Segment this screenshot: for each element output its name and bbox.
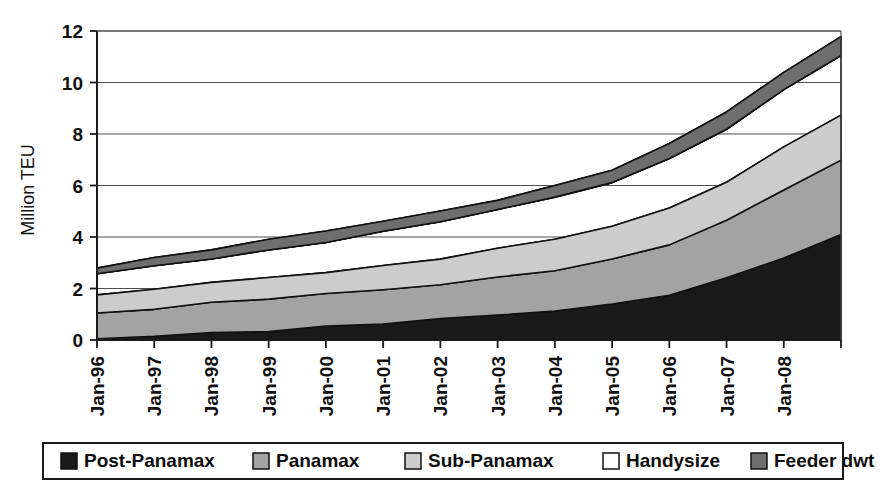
y-axis-title: Million TEU: [18, 144, 38, 236]
x-tick-label: Jan-02: [430, 356, 451, 416]
y-tick-label: 12: [62, 21, 83, 42]
x-tick-label: Jan-99: [259, 356, 280, 416]
x-tick-label: Jan-05: [602, 356, 623, 417]
x-tick-label: Jan-00: [316, 356, 337, 416]
legend-swatch-feeder-dwt: [751, 453, 767, 469]
y-tick-label: 6: [72, 176, 83, 197]
y-tick-label: 0: [72, 330, 83, 351]
x-tick-label: Jan-06: [659, 356, 680, 416]
x-tick-label: Jan-04: [545, 356, 566, 417]
x-tick-label: Jan-08: [774, 356, 795, 416]
x-tick-label: Jan-03: [488, 356, 509, 416]
x-tick-label: Jan-98: [201, 356, 222, 416]
y-tick-label: 8: [72, 124, 83, 145]
legend-swatch-panamax: [253, 453, 269, 469]
legend-label-sub-panamax: Sub-Panamax: [428, 450, 554, 471]
legend-label-handysize: Handysize: [626, 450, 720, 471]
legend-label-post-panamax: Post-Panamax: [84, 450, 215, 471]
legend-label-panamax: Panamax: [276, 450, 360, 471]
chart-canvas: 024681012 Jan-96Jan-97Jan-98Jan-99Jan-00…: [0, 0, 885, 490]
x-tick-label: Jan-07: [717, 356, 738, 416]
x-tick-label: Jan-01: [373, 356, 394, 417]
y-tick-label: 2: [72, 279, 83, 300]
legend-swatch-sub-panamax: [405, 453, 421, 469]
stacked-area-chart: 024681012 Jan-96Jan-97Jan-98Jan-99Jan-00…: [0, 0, 885, 490]
x-tick-label: Jan-97: [144, 356, 165, 416]
y-tick-label: 10: [62, 73, 83, 94]
legend-swatch-post-panamax: [61, 453, 77, 469]
y-tick-label: 4: [72, 227, 83, 248]
legend-swatch-handysize: [603, 453, 619, 469]
chart-legend: Post-PanamaxPanamaxSub-PanamaxHandysizeF…: [43, 443, 875, 479]
legend-label-feeder-dwt: Feeder dwt: [774, 450, 875, 471]
x-tick-label: Jan-96: [87, 356, 108, 416]
